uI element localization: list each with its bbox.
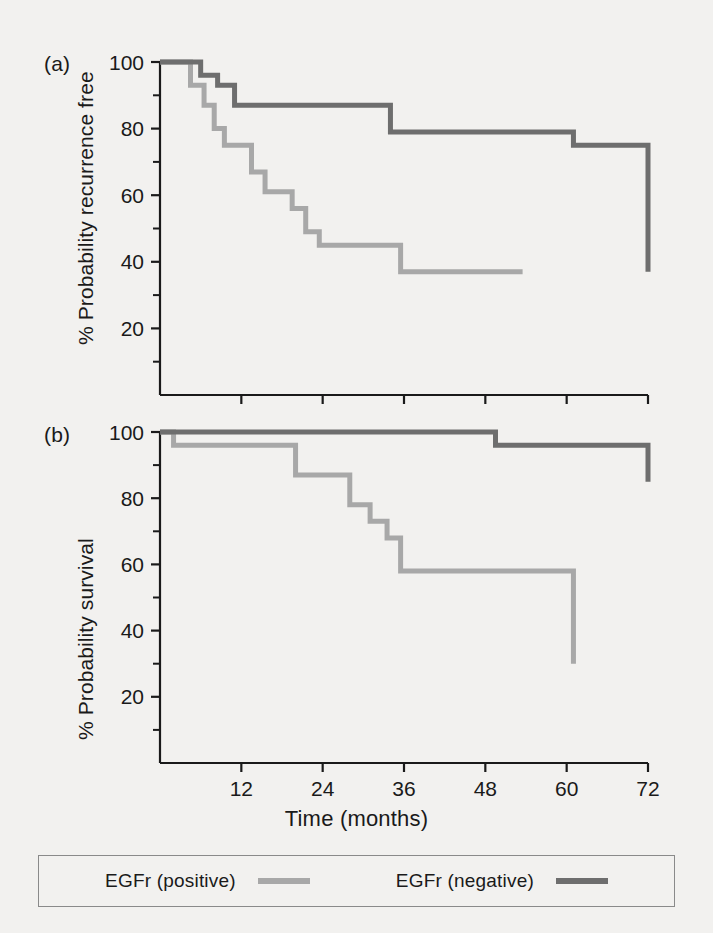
legend-swatch-positive bbox=[258, 878, 310, 884]
panel-a-tag: (a) bbox=[44, 52, 70, 76]
legend-entry-positive: EGFr (positive) bbox=[105, 870, 310, 892]
x-axis-title: Time (months) bbox=[0, 806, 713, 832]
km-curve-negative bbox=[160, 62, 648, 272]
y-tick-label: 20 bbox=[121, 685, 144, 708]
km-curve-positive bbox=[160, 62, 523, 272]
x-tick-label: 60 bbox=[555, 777, 578, 800]
x-tick-label: 48 bbox=[474, 777, 497, 800]
y-tick-label: 20 bbox=[121, 317, 144, 340]
y-tick-label: 40 bbox=[121, 250, 144, 273]
legend-entry-negative: EGFr (negative) bbox=[396, 870, 608, 892]
y-tick-label: 100 bbox=[109, 51, 144, 74]
y-tick-label: 60 bbox=[121, 184, 144, 207]
panel-b-y-axis-title: % Probability survival bbox=[74, 538, 98, 740]
panel-b-tag: (b) bbox=[44, 423, 70, 447]
legend: EGFr (positive) EGFr (negative) bbox=[38, 855, 675, 907]
km-curve-negative bbox=[160, 432, 648, 482]
x-tick-label: 24 bbox=[311, 777, 335, 800]
y-tick-label: 80 bbox=[121, 487, 144, 510]
panel-a-y-axis-title: % Probability recurrence free bbox=[74, 71, 98, 345]
panel-a-plot: 20406080100 bbox=[0, 0, 713, 410]
panel-a: 20406080100 bbox=[0, 0, 713, 410]
x-tick-label: 12 bbox=[230, 777, 253, 800]
legend-swatch-negative bbox=[556, 878, 608, 884]
panel-b-plot: 20406080100122436486072 bbox=[0, 370, 713, 830]
x-tick-label: 36 bbox=[392, 777, 415, 800]
km-curve-positive bbox=[160, 432, 573, 664]
y-tick-label: 100 bbox=[109, 421, 144, 444]
figure-root: 20406080100 (a) % Probability recurrence… bbox=[0, 0, 713, 933]
y-tick-label: 80 bbox=[121, 117, 144, 140]
panel-b: 20406080100122436486072 bbox=[0, 370, 713, 830]
y-tick-label: 60 bbox=[121, 553, 144, 576]
legend-label-negative: EGFr (negative) bbox=[396, 870, 534, 892]
y-tick-label: 40 bbox=[121, 619, 144, 642]
legend-label-positive: EGFr (positive) bbox=[105, 870, 236, 892]
x-tick-label: 72 bbox=[636, 777, 659, 800]
